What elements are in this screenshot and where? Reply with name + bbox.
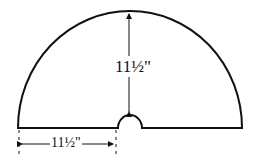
radius-label: 11½" (115, 56, 151, 77)
semicircle-diagram (0, 0, 259, 163)
base-length-label: 11½" (50, 136, 82, 150)
